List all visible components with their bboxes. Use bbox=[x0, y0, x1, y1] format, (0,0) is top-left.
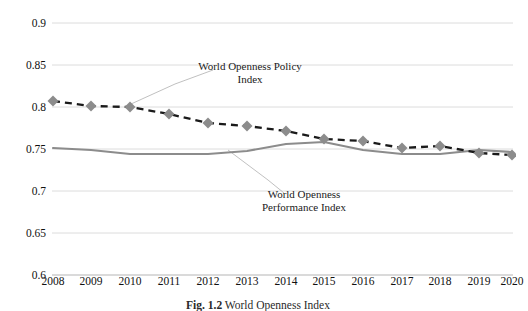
x-tick-label-2009: 2009 bbox=[71, 276, 111, 288]
x-tick-label-2017: 2017 bbox=[382, 276, 422, 288]
y-tick-label-5: 0.65 bbox=[2, 228, 46, 240]
annotation-performance-index-line2: Performance Index bbox=[239, 201, 369, 214]
x-tick-label-2011: 2011 bbox=[149, 276, 189, 288]
x-tick-label-2016: 2016 bbox=[343, 276, 383, 288]
y-tick-label-3: 0.75 bbox=[2, 144, 46, 156]
figure-caption: Fig. 1.2 World Openness Index bbox=[0, 299, 516, 311]
annotation-policy-index-line2: Index bbox=[185, 73, 315, 86]
annotation-policy-index: World Openness Policy Index bbox=[185, 60, 315, 86]
annotation-performance-index-line1: World Openness bbox=[239, 188, 369, 201]
annotation-performance-index: World Openness Performance Index bbox=[239, 188, 369, 214]
x-tick-label-2018: 2018 bbox=[420, 276, 460, 288]
annotation-policy-index-line1: World Openness Policy bbox=[185, 60, 315, 73]
x-tick-label-2013: 2013 bbox=[227, 276, 267, 288]
x-tick-label-2010: 2010 bbox=[110, 276, 150, 288]
x-tick-label-2015: 2015 bbox=[304, 276, 344, 288]
annotation-leader-lines bbox=[131, 70, 284, 193]
x-tick-label-2012: 2012 bbox=[188, 276, 228, 288]
x-tick-label-2014: 2014 bbox=[266, 276, 306, 288]
y-tick-label-2: 0.8 bbox=[2, 102, 46, 114]
figure-caption-text: World Openness Index bbox=[225, 299, 330, 311]
figure-caption-label: Fig. 1.2 bbox=[186, 299, 222, 311]
x-tick-label-2020: 2020 bbox=[492, 276, 528, 288]
x-tick-label-2008: 2008 bbox=[33, 276, 73, 288]
y-tick-label-0: 0.9 bbox=[2, 18, 46, 30]
y-tick-label-4: 0.7 bbox=[2, 186, 46, 198]
y-tick-label-1: 0.85 bbox=[2, 60, 46, 72]
series-policy-index-markers bbox=[48, 96, 517, 161]
